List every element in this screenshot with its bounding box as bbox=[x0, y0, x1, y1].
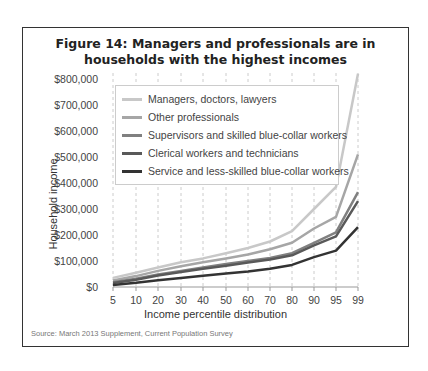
legend-label: Supervisors and skilled blue-collar work… bbox=[148, 129, 347, 141]
x-tick-label: 70 bbox=[264, 294, 276, 306]
y-tick-label: $600,000 bbox=[54, 125, 98, 137]
x-tick-label: 30 bbox=[175, 294, 187, 306]
legend-label: Clerical workers and technicians bbox=[148, 147, 299, 159]
source-note: Source: March 2013 Supplement, Current P… bbox=[31, 329, 233, 338]
x-tick-label: 95 bbox=[330, 294, 342, 306]
y-tick-label: $0 bbox=[86, 281, 98, 293]
y-tick-label: $200,000 bbox=[54, 229, 98, 241]
legend-swatch-icon bbox=[122, 170, 142, 173]
legend-item: Other professionals bbox=[122, 108, 332, 126]
legend-label: Other professionals bbox=[148, 111, 239, 123]
series-line bbox=[113, 201, 358, 283]
x-tick-label: 99 bbox=[352, 294, 364, 306]
legend-item: Supervisors and skilled blue-collar work… bbox=[122, 126, 332, 144]
legend-swatch-icon bbox=[122, 152, 142, 155]
x-tick-label: 50 bbox=[220, 294, 232, 306]
y-tick-label: $700,000 bbox=[54, 99, 98, 111]
legend-swatch-icon bbox=[122, 98, 142, 101]
y-tick-label: $100,000 bbox=[54, 255, 98, 267]
legend-swatch-icon bbox=[122, 116, 142, 119]
x-axis-label: Income percentile distribution bbox=[23, 308, 408, 320]
x-tick-label: 60 bbox=[242, 294, 254, 306]
x-tick-label: 40 bbox=[197, 294, 209, 306]
legend-item: Clerical workers and technicians bbox=[122, 144, 332, 162]
y-tick-label: $300,000 bbox=[54, 203, 98, 215]
legend: Managers, doctors, lawyersOther professi… bbox=[115, 85, 339, 185]
x-tick-label: 20 bbox=[152, 294, 164, 306]
y-tick-label: $400,000 bbox=[54, 177, 98, 189]
figure-frame: Figure 14: Managers and professionals ar… bbox=[22, 27, 409, 347]
x-tick-label: 80 bbox=[286, 294, 298, 306]
y-tick-label: $800,000 bbox=[54, 73, 98, 85]
legend-label: Service and less-skilled blue-collar wor… bbox=[148, 165, 349, 177]
legend-item: Managers, doctors, lawyers bbox=[122, 90, 332, 108]
legend-swatch-icon bbox=[122, 134, 142, 137]
legend-item: Service and less-skilled blue-collar wor… bbox=[122, 162, 332, 180]
x-tick-label: 90 bbox=[308, 294, 320, 306]
y-tick-label: $500,000 bbox=[54, 151, 98, 163]
line-chart: 51020304050607080909599$0$100,000$200,00… bbox=[23, 28, 410, 348]
x-tick-label: 5 bbox=[110, 294, 116, 306]
legend-label: Managers, doctors, lawyers bbox=[148, 93, 276, 105]
x-tick-label: 10 bbox=[130, 294, 142, 306]
